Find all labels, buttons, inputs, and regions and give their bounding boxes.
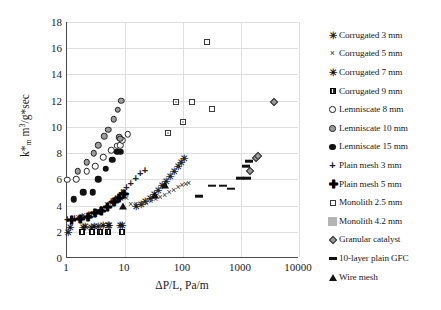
data-point bbox=[92, 163, 99, 170]
legend-item: ✳Corrugated 3 mm bbox=[327, 26, 441, 45]
legend-item: Lemniscate 10 mm bbox=[327, 119, 441, 138]
data-point: + bbox=[141, 167, 148, 174]
data-point bbox=[90, 189, 97, 196]
x-axis-tick-label: 10000 bbox=[284, 262, 312, 273]
gridline-vertical bbox=[299, 22, 300, 257]
legend-item: Corrugated 9 mm bbox=[327, 82, 441, 101]
data-point bbox=[95, 176, 102, 183]
legend-marker-square-filled-icon bbox=[327, 86, 338, 97]
legend-marker-triangle-icon bbox=[327, 272, 338, 283]
legend-item-label: Lemniscate 8 mm bbox=[339, 105, 403, 114]
y-axis-tick-label: 14 bbox=[0, 69, 70, 80]
y-axis-tick-label: 0 bbox=[0, 253, 70, 264]
y-axis-tick-label: 18 bbox=[0, 17, 70, 28]
data-point bbox=[105, 229, 111, 235]
legend-marker-square-open-icon bbox=[327, 197, 338, 208]
data-point bbox=[90, 150, 97, 157]
legend-item-label: Corrugated 9 mm bbox=[339, 87, 402, 96]
legend-item-label: Corrugated 7 mm bbox=[339, 68, 402, 77]
data-point bbox=[100, 154, 107, 161]
legend-item-label: Lemniscate 15 mm bbox=[339, 142, 408, 151]
data-point bbox=[118, 149, 125, 156]
legend-item: Monolith 2.5 mm bbox=[327, 193, 441, 212]
data-point bbox=[118, 97, 125, 104]
data-point bbox=[208, 185, 216, 188]
x-axis-tick-label: 1 bbox=[63, 262, 69, 273]
legend-item: ✚Plain mesh 5 mm bbox=[327, 175, 441, 194]
x-axis-title: ΔP/L, Pa/m bbox=[66, 279, 298, 291]
legend-item: Wire mesh bbox=[327, 268, 441, 287]
y-axis-tick-label: 16 bbox=[0, 43, 70, 54]
data-point bbox=[84, 168, 91, 175]
data-point: × bbox=[185, 180, 192, 187]
data-point bbox=[151, 192, 159, 199]
data-point bbox=[84, 159, 91, 166]
data-point bbox=[109, 156, 116, 163]
legend-item-label: Wire mesh bbox=[339, 273, 378, 282]
data-point bbox=[114, 107, 121, 114]
data-point bbox=[95, 142, 102, 149]
y-axis-tick-label: 4 bbox=[0, 200, 70, 211]
data-point: ✚ bbox=[119, 190, 126, 197]
legend-item-label: 10-layer plain GFC bbox=[339, 254, 409, 263]
legend-marker-circle-filled-icon bbox=[327, 141, 338, 152]
legend-item-label: Monolith 4.2 mm bbox=[339, 217, 402, 226]
legend-item: +Plain mesh 3 mm bbox=[327, 156, 441, 175]
data-point: ✳ bbox=[118, 221, 125, 228]
x-axis-tick-label: 100 bbox=[174, 262, 191, 273]
legend-item-label: Corrugated 3 mm bbox=[339, 31, 402, 40]
data-point bbox=[243, 177, 251, 180]
chart-legend: ✳Corrugated 3 mm×Corrugated 5 mm✳Corruga… bbox=[327, 26, 441, 286]
legend-item-label: Monolith 2.5 mm bbox=[339, 198, 402, 207]
legend-item: ✳Corrugated 7 mm bbox=[327, 63, 441, 82]
y-axis-tick-label: 12 bbox=[0, 95, 70, 106]
data-point bbox=[242, 165, 250, 168]
legend-item-label: Plain mesh 3 mm bbox=[339, 161, 402, 170]
legend-marker-plus-icon: + bbox=[327, 160, 338, 171]
data-point bbox=[80, 189, 87, 196]
data-point bbox=[70, 196, 77, 203]
legend-item-label: Plain mesh 5 mm bbox=[339, 180, 402, 189]
data-point bbox=[75, 168, 82, 175]
data-point: ✳ bbox=[105, 222, 112, 229]
data-point bbox=[101, 133, 108, 140]
legend-marker-plus-bold-icon: ✚ bbox=[327, 179, 338, 190]
legend-item-label: Granular catalyst bbox=[339, 235, 400, 244]
data-point bbox=[195, 195, 203, 198]
data-point: ✚ bbox=[67, 216, 74, 223]
data-point bbox=[124, 131, 131, 138]
data-point bbox=[189, 99, 195, 105]
data-point bbox=[173, 99, 179, 105]
data-point bbox=[79, 229, 85, 235]
data-point bbox=[204, 39, 210, 45]
legend-marker-diamond-icon bbox=[327, 234, 338, 245]
legend-marker-dash-icon bbox=[327, 253, 338, 264]
y-axis-tick-label: 8 bbox=[0, 148, 70, 159]
legend-marker-x-icon: × bbox=[327, 48, 338, 59]
data-point bbox=[89, 229, 95, 235]
legend-item: Monolith 4.2 mm bbox=[327, 212, 441, 231]
data-point bbox=[73, 176, 80, 183]
legend-item: Lemniscate 15 mm bbox=[327, 138, 441, 157]
y-axis-tick-label: 2 bbox=[0, 226, 70, 237]
x-axis-tick-label: 1000 bbox=[229, 262, 251, 273]
legend-item: Granular catalyst bbox=[327, 231, 441, 250]
gridline-vertical bbox=[241, 22, 242, 257]
data-point: ✚ bbox=[76, 215, 83, 222]
data-point bbox=[119, 202, 127, 209]
legend-item-label: Lemniscate 10 mm bbox=[339, 124, 408, 133]
data-point bbox=[245, 160, 253, 163]
legend-item: Lemniscate 8 mm bbox=[327, 100, 441, 119]
data-point bbox=[97, 229, 103, 235]
data-point bbox=[117, 135, 124, 142]
data-point: ✳ bbox=[180, 155, 187, 162]
legend-marker-asterisk-icon: ✳ bbox=[327, 30, 338, 41]
y-axis-tick-label: 6 bbox=[0, 174, 70, 185]
legend-marker-x-bold-icon: ✳ bbox=[327, 67, 338, 78]
legend-marker-circle-open-icon bbox=[327, 104, 338, 115]
data-point bbox=[161, 181, 169, 188]
legend-marker-circle-gray-icon bbox=[327, 123, 338, 134]
data-point bbox=[102, 166, 109, 173]
data-point bbox=[105, 126, 112, 133]
gridline-vertical bbox=[183, 22, 184, 257]
